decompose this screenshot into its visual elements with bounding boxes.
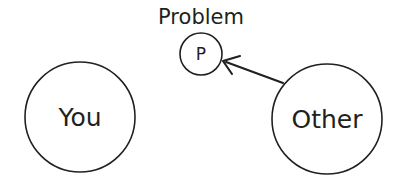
diagram-canvas: You Problem P Other [0, 0, 400, 186]
edge-other-to-problem[interactable] [223, 56, 283, 83]
diagram-svg: You Problem P Other [0, 0, 400, 186]
node-other[interactable]: Other [272, 64, 382, 174]
problem-caption: Problem [158, 5, 244, 29]
edge-other-to-problem-shaft [226, 62, 283, 83]
node-other-label: Other [292, 105, 364, 134]
node-problem-label: P [196, 44, 206, 64]
node-problem[interactable]: P [180, 33, 222, 75]
node-you[interactable]: You [25, 62, 135, 172]
node-you-label: You [57, 103, 101, 132]
